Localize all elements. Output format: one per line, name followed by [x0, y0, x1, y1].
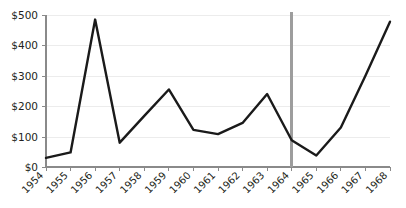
- y-tick-label-400: $400: [11, 39, 38, 51]
- y-tick-label-100: $100: [11, 131, 38, 143]
- y-tick-label-200: $200: [11, 100, 38, 112]
- line-chart: $500 $400 $300 $200 $100 $0: [0, 0, 406, 208]
- y-tick-label-500: $500: [11, 9, 38, 21]
- y-tick-label-300: $300: [11, 70, 38, 82]
- chart-canvas: $500 $400 $300 $200 $100 $0: [0, 0, 406, 208]
